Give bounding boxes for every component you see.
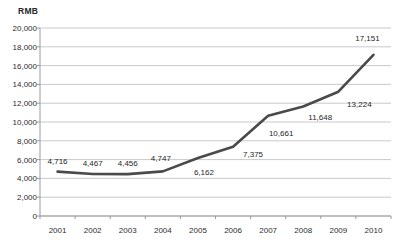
y-axis-tick-label: 16,000: [1, 61, 37, 70]
x-axis-tick-label: 2006: [224, 226, 242, 235]
x-axis-tick-label: 2008: [294, 226, 312, 235]
x-axis-tick-label: 2004: [154, 226, 172, 235]
data-point-label: 17,151: [355, 33, 379, 42]
y-axis-tick-label: 0: [1, 212, 37, 221]
y-axis-tick-label: 18,000: [1, 42, 37, 51]
y-axis-tick-label: 6,000: [1, 155, 37, 164]
data-point-label: 4,456: [118, 159, 138, 168]
x-axis-tick-label: 2010: [365, 226, 383, 235]
data-point-label: 4,716: [48, 156, 68, 165]
data-point-label: 6,162: [194, 168, 214, 177]
y-axis-tick-label: 8,000: [1, 136, 37, 145]
y-axis-tick-label: 12,000: [1, 99, 37, 108]
plot-area: [0, 0, 402, 249]
data-point-label: 7,375: [243, 149, 263, 158]
y-axis-tick-label: 2,000: [1, 193, 37, 202]
x-axis-tick-label: 2003: [119, 226, 137, 235]
x-axis-tick-label: 2005: [189, 226, 207, 235]
data-point-label: 10,661: [269, 128, 293, 137]
data-point-label: 4,467: [83, 159, 103, 168]
line-chart: RMB 02,0004,0006,0008,00010,00012,00014,…: [0, 0, 402, 249]
data-point-label: 11,648: [308, 112, 332, 121]
x-axis-tick-label: 2001: [49, 226, 67, 235]
y-axis-tick-label: 10,000: [1, 118, 37, 127]
x-axis-tick-label: 2009: [329, 226, 347, 235]
y-axis-tick-labels: 02,0004,0006,0008,00010,00012,00014,0001…: [0, 0, 37, 249]
x-axis-tick-label: 2002: [84, 226, 102, 235]
y-axis-tick-label: 20,000: [1, 24, 37, 33]
y-axis-tick-label: 4,000: [1, 174, 37, 183]
data-point-label: 13,224: [347, 99, 371, 108]
x-axis-tick-label: 2007: [259, 226, 277, 235]
data-point-label: 4,747: [151, 154, 171, 163]
y-axis-tick-label: 14,000: [1, 80, 37, 89]
